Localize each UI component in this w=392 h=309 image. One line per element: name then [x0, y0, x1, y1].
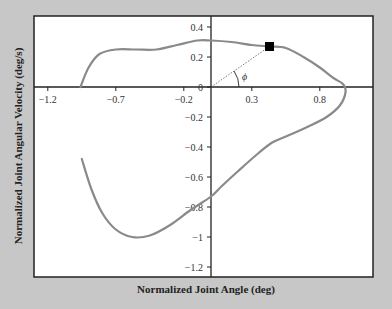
- y-tick-label: −1.2: [185, 262, 203, 273]
- x-tick-label: 0.8: [314, 94, 327, 105]
- plot-area: [34, 16, 373, 277]
- y-tick-label: −0.4: [185, 142, 203, 153]
- x-tick-label: 0.3: [246, 94, 259, 105]
- y-tick-label: −0.2: [185, 112, 203, 123]
- x-tick-label: −1.2: [39, 94, 57, 105]
- y-axis-title: Normalized Joint Angular Velocity (deg/s…: [12, 47, 25, 244]
- x-axis-title: Normalized Joint Angle (deg): [137, 283, 275, 296]
- phase-portrait-chart: −1.2−0.7−0.20.30.8 0.40.20−0.2−0.4−0.6−0…: [0, 0, 392, 309]
- phi-label: ϕ: [242, 71, 247, 82]
- y-tick-label: −0.6: [185, 172, 203, 183]
- y-tick-label: 0.2: [191, 52, 204, 63]
- x-tick-label: −0.7: [107, 94, 125, 105]
- y-tick-label: 0: [198, 82, 203, 93]
- current-state-marker: [265, 42, 274, 51]
- x-tick-label: −0.2: [175, 94, 193, 105]
- y-tick-label: 0.4: [191, 22, 204, 33]
- y-tick-label: −1: [192, 232, 203, 243]
